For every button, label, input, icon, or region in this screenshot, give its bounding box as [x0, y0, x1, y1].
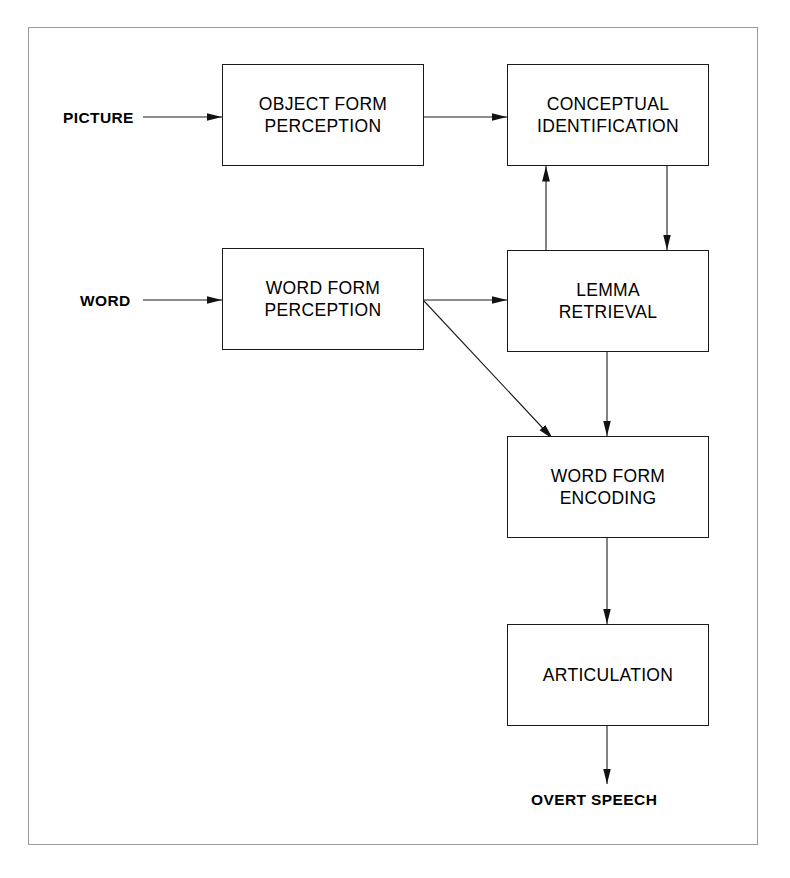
node-lemma-retrieval-label: LEMMA RETRIEVAL: [553, 279, 664, 324]
node-object-form-perception: OBJECT FORM PERCEPTION: [222, 64, 424, 166]
label-overt-speech-output: OVERT SPEECH: [531, 791, 657, 809]
node-conceptual-identification-label: CONCEPTUAL IDENTIFICATION: [531, 93, 685, 138]
diagram-canvas: OBJECT FORM PERCEPTION CONCEPTUAL IDENTI…: [0, 0, 790, 878]
node-object-form-perception-label: OBJECT FORM PERCEPTION: [253, 93, 393, 138]
node-conceptual-identification: CONCEPTUAL IDENTIFICATION: [507, 64, 709, 166]
node-lemma-retrieval: LEMMA RETRIEVAL: [507, 250, 709, 352]
node-articulation-label: ARTICULATION: [537, 664, 679, 686]
node-word-form-encoding-label: WORD FORM ENCODING: [545, 465, 672, 510]
node-word-form-encoding: WORD FORM ENCODING: [507, 436, 709, 538]
node-word-form-perception: WORD FORM PERCEPTION: [222, 248, 424, 350]
label-picture-input: PICTURE: [63, 109, 134, 127]
label-word-input: WORD: [80, 292, 131, 310]
node-articulation: ARTICULATION: [507, 624, 709, 726]
node-word-form-perception-label: WORD FORM PERCEPTION: [259, 277, 388, 322]
